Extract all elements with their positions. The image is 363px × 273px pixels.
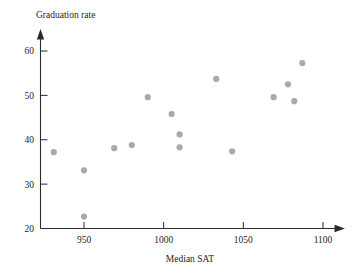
data-point [271, 94, 277, 100]
x-tick-label-1050: 1050 [234, 235, 253, 245]
y-axis-title: Graduation rate [36, 10, 95, 20]
data-point [129, 142, 135, 148]
data-point [111, 145, 117, 151]
y-tick-label-40: 40 [25, 135, 35, 145]
y-tick-label-60: 60 [25, 46, 35, 56]
y-tick-label-30: 30 [25, 180, 35, 190]
data-point [169, 111, 175, 117]
data-point [299, 60, 305, 66]
data-point [177, 144, 183, 150]
data-point [229, 148, 235, 154]
data-point-group [51, 60, 306, 220]
data-point [177, 131, 183, 137]
x-tick-label-1100: 1100 [314, 235, 333, 245]
data-point [213, 76, 219, 82]
y-axis-arrow-icon [37, 29, 44, 40]
scatter-plot-figure: Graduation rate 2030405060 9501000105011… [0, 0, 363, 273]
data-point [291, 98, 297, 104]
data-point [145, 94, 151, 100]
data-point [81, 213, 87, 219]
data-point [285, 81, 291, 87]
data-point [51, 149, 57, 155]
data-point [81, 167, 87, 173]
x-tick-label-950: 950 [77, 235, 92, 245]
x-axis-arrow-icon [335, 225, 346, 232]
x-axis-title: Median SAT [166, 254, 214, 264]
y-tick-label-50: 50 [25, 91, 35, 101]
x-axis-ticks: 950100010501100 [77, 222, 333, 245]
x-tick-label-1000: 1000 [154, 235, 173, 245]
y-axis-ticks: 2030405060 [25, 46, 48, 234]
plot-canvas: Graduation rate 2030405060 9501000105011… [0, 0, 363, 273]
y-tick-label-20: 20 [25, 224, 35, 234]
